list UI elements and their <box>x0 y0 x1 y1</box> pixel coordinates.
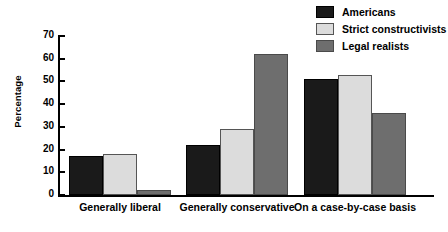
legend-swatch-icon <box>316 40 334 52</box>
y-tick-mark <box>58 58 65 60</box>
y-tick-label: 40 <box>22 98 54 108</box>
y-tick-mark <box>58 194 65 196</box>
y-tick-mark <box>58 80 65 82</box>
y-tick-label: 50 <box>22 75 54 85</box>
bar <box>338 75 372 195</box>
legend-label: Strict constructivists <box>342 23 446 35</box>
y-tick-mark <box>58 103 65 105</box>
y-tick-label-text: 70 <box>24 30 54 40</box>
y-tick-mark <box>58 171 65 173</box>
y-tick-label: 70 <box>22 30 54 40</box>
bar <box>372 113 406 195</box>
y-tick-label-text: 30 <box>24 121 54 131</box>
legend-item: Americans <box>316 4 448 20</box>
legend-item: Strict constructivists <box>316 21 448 37</box>
bar <box>103 154 137 195</box>
y-tick-mark <box>58 126 65 128</box>
bar <box>220 129 254 195</box>
legend-label: Legal realists <box>342 40 409 52</box>
x-axis-category-label: On a case-by-case basis <box>265 201 445 213</box>
y-tick-label-text: 0 <box>24 189 54 199</box>
bar <box>186 145 220 195</box>
legend-label: Americans <box>342 6 396 18</box>
y-tick-label: 20 <box>22 144 54 154</box>
legend-item: Legal realists <box>316 38 448 54</box>
y-axis-title: Percentage <box>12 57 23 147</box>
y-tick-label: 0 <box>22 189 54 199</box>
y-tick-label-text: 50 <box>24 75 54 85</box>
legend-swatch-icon <box>316 6 334 18</box>
y-tick-label-text: 20 <box>24 144 54 154</box>
y-tick-label: 10 <box>22 166 54 176</box>
y-tick-label: 60 <box>22 53 54 63</box>
bar <box>304 79 338 195</box>
bar <box>137 190 171 195</box>
y-tick-mark <box>58 35 65 37</box>
legend: AmericansStrict constructivistsLegal rea… <box>316 4 448 55</box>
y-tick-label-text: 40 <box>24 98 54 108</box>
y-tick-mark <box>58 149 65 151</box>
bar <box>254 54 288 195</box>
y-tick-label-text: 10 <box>24 166 54 176</box>
x-axis-line <box>58 195 434 197</box>
y-tick-label: 30 <box>22 121 54 131</box>
y-tick-label-text: 60 <box>24 53 54 63</box>
bar <box>69 156 103 195</box>
bar-chart: Percentage 010203040506070 Generally lib… <box>0 0 448 232</box>
legend-swatch-icon <box>316 23 334 35</box>
